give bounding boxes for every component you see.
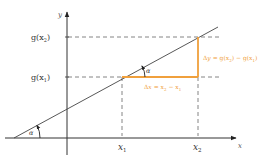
y-tick-label-g-x1: g(x1) (31, 73, 50, 83)
angle-label-triangle: α (146, 67, 151, 75)
angle-label-origin: α (29, 129, 34, 137)
x-tick-label-x1: x1 (118, 142, 127, 153)
delta-x-label: Δx = x2 − x1 (144, 83, 181, 92)
slope-diagram: α α y x g(x2) g(x1) x1 x2 Δy = g(x2) − g… (0, 0, 274, 160)
delta-y-label: Δy = g(x2) − g(x1) (203, 54, 257, 63)
x-tick-label-x2: x2 (193, 142, 202, 153)
y-tick-label-g-x2: g(x2) (31, 33, 50, 43)
x-axis-label: x (238, 142, 242, 150)
angle-arc-origin (37, 126, 40, 139)
y-axis-label: y (57, 11, 63, 19)
slope-triangle (122, 37, 198, 77)
